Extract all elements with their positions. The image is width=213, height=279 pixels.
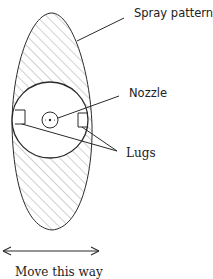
nozzle-orifice <box>42 112 58 128</box>
direction-arrow-icon <box>3 247 99 255</box>
direction-label: Move this way <box>15 266 103 278</box>
spray-pattern-label: Spray pattern <box>134 8 213 20</box>
nozzle-label: Nozzle <box>129 88 167 100</box>
lugs-label: Lugs <box>126 147 156 159</box>
spray-pattern-leader-line <box>77 18 124 41</box>
